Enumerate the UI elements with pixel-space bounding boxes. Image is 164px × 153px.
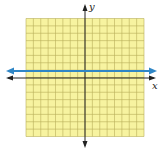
y-axis-down-arrow-icon (83, 141, 88, 148)
x-axis-left-arrow-icon (6, 76, 13, 81)
y-axis-label: y (88, 1, 95, 12)
line-left-arrow-icon (6, 68, 14, 75)
coordinate-plane: x y (0, 0, 164, 153)
y-axis-up-arrow-icon (83, 4, 88, 11)
line-right-arrow-icon (149, 68, 157, 75)
x-axis-label: x (152, 80, 158, 91)
